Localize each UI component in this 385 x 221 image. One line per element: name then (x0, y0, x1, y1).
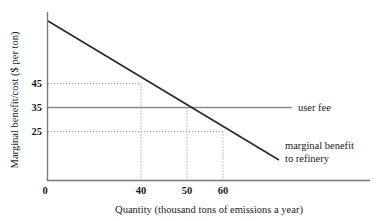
x-tick-label-40: 40 (136, 185, 147, 196)
x-tick-label-50: 50 (182, 185, 193, 196)
chart-figure: 45 35 25 0 40 50 60 user fee marginal be… (0, 0, 385, 221)
y-axis-title: Marginal benefit/cost ($ per ton) (9, 31, 21, 168)
x-tick-label-0: 0 (42, 185, 47, 196)
y-tick-label-35: 35 (32, 102, 43, 113)
marginal-benefit-chart: 45 35 25 0 40 50 60 user fee marginal be… (0, 0, 385, 221)
y-tick-label-45: 45 (32, 78, 43, 89)
x-axis-title: Quantity (thousand tons of emissions a y… (115, 204, 303, 216)
marginal-benefit-label-line2: to refinery (285, 153, 330, 164)
guide-lines (48, 84, 223, 181)
marginal-benefit-line (48, 21, 279, 160)
user-fee-label: user fee (298, 102, 331, 113)
y-tick-label-25: 25 (32, 126, 43, 137)
marginal-benefit-label-line1: marginal benefit (285, 140, 354, 151)
x-tick-label-60: 60 (218, 185, 229, 196)
